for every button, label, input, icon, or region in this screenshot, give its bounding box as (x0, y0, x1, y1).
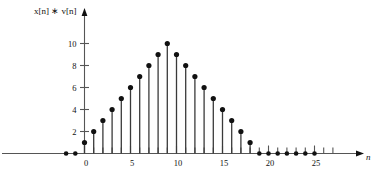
data-point-marker (64, 151, 69, 156)
y-tick-label: 10 (68, 39, 77, 49)
data-point-marker (294, 151, 299, 156)
data-point-marker (100, 118, 105, 123)
data-point-marker (192, 74, 197, 79)
data-point-marker (202, 85, 207, 90)
y-tick-label: 8 (72, 61, 76, 71)
data-point-marker (137, 74, 142, 79)
data-point-marker (303, 151, 308, 156)
data-point-marker (128, 85, 133, 90)
x-tick-label: 5 (130, 158, 134, 168)
data-point-marker (183, 63, 188, 68)
data-point-marker (146, 63, 151, 68)
x-axis (2, 151, 364, 157)
data-point-marker (257, 151, 262, 156)
data-point-marker (248, 140, 253, 145)
stem-plot-figure: x[n] ∗ v[n] n 0510152025246810 (0, 0, 378, 188)
data-point-marker (82, 140, 87, 145)
y-tick-label: 4 (72, 105, 77, 115)
data-point-marker (156, 52, 161, 57)
y-tick-label: 6 (72, 83, 76, 93)
x-tick-label: 20 (266, 158, 275, 168)
data-point-marker (211, 96, 216, 101)
data-point-marker (119, 96, 124, 101)
data-point-marker (91, 129, 96, 134)
data-point-marker (73, 151, 78, 156)
data-point-marker (312, 151, 317, 156)
data-point-marker (110, 107, 115, 112)
x-tick-label: 0 (84, 158, 88, 168)
x-tick-label: 10 (174, 158, 183, 168)
y-axis-label: x[n] ∗ v[n] (34, 6, 77, 16)
x-tick-label: 15 (220, 158, 229, 168)
data-point-marker (229, 118, 234, 123)
data-point-marker (174, 52, 179, 57)
plot-layer: 0510152025246810 (64, 39, 333, 168)
x-axis-label: n (366, 152, 371, 162)
data-point-marker (285, 151, 290, 156)
y-tick-label: 2 (72, 127, 76, 137)
data-point-marker (266, 151, 271, 156)
data-point-marker (165, 41, 170, 46)
data-point-marker (220, 107, 225, 112)
data-point-marker (238, 129, 243, 134)
x-tick-label: 25 (312, 158, 321, 168)
data-point-marker (275, 151, 280, 156)
